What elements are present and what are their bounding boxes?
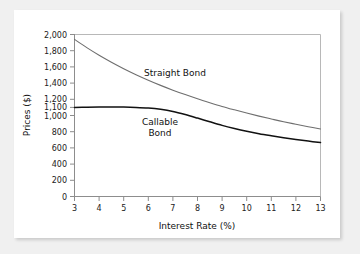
data-curves xyxy=(75,39,321,142)
x-tick-label-13: 13 xyxy=(315,204,325,213)
x-tick-label-7: 7 xyxy=(170,204,175,213)
y-tick-label-600: 600 xyxy=(52,144,67,153)
chart-figure: 2,000 1,800 1,600 1,400 1,200 1,100 1,00… xyxy=(0,0,360,254)
y-tick-label-1000: 1,000 xyxy=(44,112,67,121)
x-axis-title: Interest Rate (%) xyxy=(159,221,236,231)
x-tick-label-4: 4 xyxy=(97,204,102,213)
callable-bond-curve xyxy=(75,107,321,143)
x-axis-ticks xyxy=(75,197,321,202)
callable-bond-label-line2: Bond xyxy=(148,128,171,138)
bond-price-chart: 2,000 1,800 1,600 1,400 1,200 1,100 1,00… xyxy=(0,0,360,254)
x-tick-label-5: 5 xyxy=(121,204,126,213)
x-tick-label-9: 9 xyxy=(220,204,225,213)
y-tick-label-2000: 2,000 xyxy=(44,31,67,40)
straight-bond-label: Straight Bond xyxy=(144,68,206,78)
y-tick-label-1800: 1,800 xyxy=(44,47,67,56)
straight-bond-curve xyxy=(75,39,321,129)
x-tick-label-10: 10 xyxy=(242,204,252,213)
series-annotations: Straight Bond Callable Bond xyxy=(142,68,206,138)
y-axis-ticks xyxy=(70,35,75,197)
y-tick-label-800: 800 xyxy=(52,128,67,137)
x-tick-label-3: 3 xyxy=(72,204,77,213)
y-tick-label-0: 0 xyxy=(62,193,67,202)
y-tick-label-1600: 1,600 xyxy=(44,63,67,72)
x-tick-label-12: 12 xyxy=(291,204,301,213)
callable-bond-label-line1: Callable xyxy=(142,117,179,127)
y-tick-label-400: 400 xyxy=(52,160,67,169)
y-tick-label-200: 200 xyxy=(52,176,67,185)
x-tick-label-6: 6 xyxy=(146,204,151,213)
y-axis-title: Prices ($) xyxy=(22,94,32,136)
plot-frame xyxy=(74,35,321,197)
y-axis-tick-labels: 2,000 1,800 1,600 1,400 1,200 1,100 1,00… xyxy=(44,31,67,202)
x-tick-label-8: 8 xyxy=(195,204,200,213)
x-tick-label-11: 11 xyxy=(266,204,276,213)
x-axis-tick-labels: 3 4 5 6 7 8 9 10 11 12 13 xyxy=(72,204,326,213)
y-tick-label-1400: 1,400 xyxy=(44,79,67,88)
